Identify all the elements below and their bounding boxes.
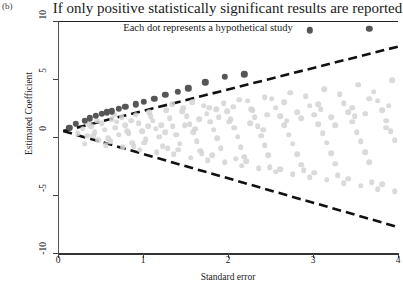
scatter-point	[366, 160, 372, 166]
scatter-point	[154, 149, 160, 155]
scatter-point	[209, 153, 215, 159]
scatter-point	[379, 182, 385, 188]
x-tick-label: 0	[56, 255, 61, 265]
scatter-point	[324, 177, 330, 183]
scatter-point	[321, 86, 327, 92]
scatter-point	[175, 147, 181, 153]
scatter-point	[311, 112, 317, 118]
scatter-point	[120, 144, 126, 150]
scatter-point	[307, 103, 313, 109]
scatter-point	[213, 106, 219, 112]
scatter-point	[95, 138, 101, 144]
scatter-point	[222, 160, 228, 166]
scatter-point	[184, 113, 190, 119]
scatter-point	[301, 168, 307, 174]
scatter-point	[137, 147, 143, 153]
scatter-point	[116, 132, 122, 138]
scatter-point	[190, 99, 196, 105]
scatter-point	[182, 122, 188, 128]
scatter-point	[233, 156, 239, 162]
scatter-point	[141, 140, 147, 146]
scatter-point	[179, 109, 185, 115]
scatter-point	[236, 97, 242, 103]
scatter-point	[352, 113, 358, 119]
scatter-point	[84, 133, 90, 139]
scatter-point	[243, 158, 249, 164]
scatter-point	[383, 125, 389, 131]
scatter-point	[264, 112, 270, 118]
scatter-point	[303, 93, 309, 99]
scatter-point	[366, 96, 372, 102]
scatter-point	[199, 150, 205, 156]
scatter-point	[75, 131, 81, 137]
y-tick-label: 10	[38, 10, 403, 20]
scatter-point	[123, 122, 129, 128]
scatter-point	[277, 167, 283, 173]
scatter-point	[80, 126, 86, 132]
scatter-point	[145, 124, 151, 130]
scatter-point	[383, 118, 389, 124]
scatter-point	[208, 119, 214, 125]
scatter-point	[281, 99, 287, 105]
chart-annotation: Each dot represents a hypothetical study	[78, 22, 338, 33]
scatter-point	[320, 131, 326, 137]
scatter-point	[216, 114, 222, 120]
scatter-point	[286, 132, 292, 138]
scatter-point	[140, 128, 146, 134]
scatter-point	[379, 107, 385, 113]
scatter-point	[245, 98, 251, 104]
panel-label: (b)	[2, 1, 13, 11]
scatter-point	[82, 141, 88, 147]
scatter-point	[375, 98, 381, 104]
scatter-point	[324, 140, 330, 146]
x-axis-label: Standard error	[58, 272, 398, 282]
plot-area	[58, 21, 398, 253]
scatter-point	[362, 111, 368, 117]
scatter-point	[328, 150, 334, 156]
scatter-point	[290, 171, 296, 177]
x-tick-label: 3	[311, 255, 316, 265]
scatter-point	[386, 103, 392, 109]
scatter-point	[214, 135, 220, 141]
scatter-point	[332, 122, 338, 128]
scatter-point	[369, 179, 375, 185]
scatter-point	[311, 170, 317, 176]
scatter-point	[226, 119, 232, 125]
y-axis-label: Estimated Coefficient	[24, 72, 34, 155]
scatter-point	[290, 141, 296, 147]
scatter-point	[165, 146, 171, 152]
scatter-point	[260, 127, 266, 133]
x-tick-label: 1	[141, 255, 146, 265]
scatter-point	[231, 125, 237, 131]
scatter-point	[204, 111, 210, 117]
scatter-point	[174, 132, 180, 138]
scatter-point	[267, 164, 273, 170]
scatter-point	[133, 112, 139, 118]
scatter-point	[169, 102, 175, 108]
scatter-point	[136, 120, 142, 126]
scatter-point	[124, 128, 130, 134]
scatter-point	[294, 110, 300, 116]
scatter-point	[252, 114, 258, 120]
scatter-point	[332, 161, 338, 167]
scatter-point	[358, 183, 364, 189]
scatter-point	[273, 105, 279, 111]
scatter-point	[230, 104, 236, 110]
scatter-point	[163, 107, 169, 113]
scatter-point	[259, 133, 265, 139]
scatter-point	[201, 103, 207, 109]
scatter-point	[262, 142, 268, 148]
x-tick-label: 2	[226, 255, 231, 265]
scatter-point	[170, 124, 176, 130]
scatter-point	[131, 143, 137, 149]
scatter-point	[177, 141, 183, 147]
scatter-point	[162, 129, 168, 135]
scatter-point	[358, 139, 364, 145]
scatter-point	[392, 138, 398, 144]
scatter-point	[112, 125, 118, 131]
x-tick-label: 4	[396, 255, 401, 265]
scatter-point	[341, 100, 347, 106]
scatter-point	[362, 149, 368, 155]
scatter-point	[247, 120, 253, 126]
scatter-point	[211, 127, 217, 133]
